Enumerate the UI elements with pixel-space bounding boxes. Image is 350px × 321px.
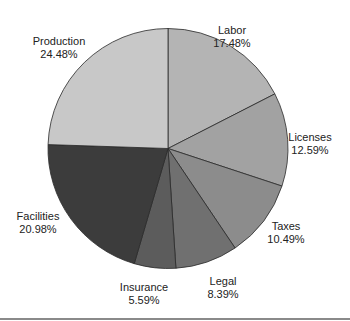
label-labor: Labor 17.48%: [213, 24, 250, 50]
slice-label-value: 17.48%: [213, 37, 250, 50]
slice-label-value: 8.39%: [207, 288, 238, 301]
slice-label-value: 10.49%: [267, 233, 304, 246]
label-insurance: Insurance 5.59%: [120, 281, 168, 307]
slice-label-name: Licenses: [288, 131, 331, 144]
label-legal: Legal 8.39%: [207, 275, 238, 301]
slice-label-name: Labor: [213, 24, 250, 37]
label-facilities: Facilities 20.98%: [17, 210, 60, 236]
slice-label-name: Taxes: [267, 220, 304, 233]
slice-label-name: Facilities: [17, 210, 60, 223]
label-production: Production 24.48%: [33, 35, 86, 61]
bottom-divider: [0, 318, 350, 320]
slice-label-name: Production: [33, 35, 86, 48]
slice-label-value: 24.48%: [33, 48, 86, 61]
label-licenses: Licenses 12.59%: [288, 131, 331, 157]
slice-label-value: 5.59%: [120, 294, 168, 307]
slice-label-name: Legal: [207, 275, 238, 288]
slice-label-value: 20.98%: [17, 223, 60, 236]
slice-label-value: 12.59%: [288, 144, 331, 157]
slice-label-name: Insurance: [120, 281, 168, 294]
label-taxes: Taxes 10.49%: [267, 220, 304, 246]
